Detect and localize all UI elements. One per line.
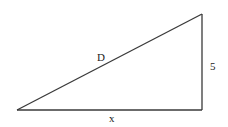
right-triangle-diagram: D 5 x: [0, 0, 228, 127]
hypotenuse-label: D: [97, 51, 105, 63]
horizontal-side-label: x: [109, 112, 115, 124]
hypotenuse-edge: [17, 14, 202, 110]
vertical-side-label: 5: [210, 60, 216, 72]
